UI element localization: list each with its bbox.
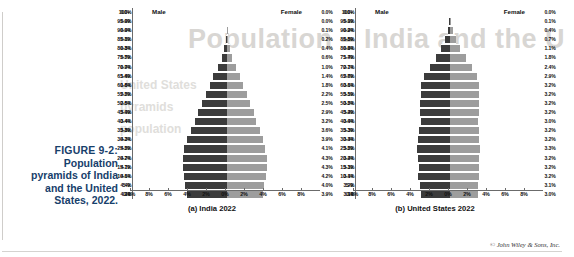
figure-number: FIGURE 9-2:: [8, 144, 118, 157]
male-half: 0.2%: [356, 26, 450, 35]
male-half: 3.2%: [356, 108, 450, 117]
male-half: 0.9%: [356, 44, 450, 53]
female-value-label: 3.3%: [543, 144, 556, 153]
male-value-label: 3.3%: [343, 126, 356, 135]
male-half: 3.4%: [133, 117, 227, 126]
female-half: 3.2%: [450, 126, 544, 135]
axis-tick-label: 4%: [259, 191, 267, 197]
pyramid-bar-pair: 3.8%3.6%: [132, 126, 320, 135]
male-value-label: 4.2%: [120, 135, 133, 144]
male-value-label: 3.0%: [343, 117, 356, 126]
pyramid-bar-pair: 1.4%1.4%: [132, 72, 320, 81]
male-value-label: 2.2%: [120, 90, 133, 99]
male-bar: 1.4%: [213, 72, 226, 81]
female-half: 3.2%: [450, 172, 544, 181]
female-half: 0.7%: [450, 35, 544, 44]
female-half: 0.6%: [227, 53, 321, 62]
figure-9-2: FIGURE 9-2: Population pyramids of India…: [0, 0, 574, 257]
pyramid-row: 70-742.1%2.4%: [327, 63, 543, 72]
female-bar: 0.4%: [227, 44, 231, 53]
pyramid-bar-pair: 0.5%0.6%: [132, 53, 320, 62]
axis-tick-label: 2%: [425, 191, 433, 197]
male-half: 4.4%: [133, 181, 227, 190]
male-half: 3.4%: [356, 135, 450, 144]
female-half: 3.2%: [227, 117, 321, 126]
female-value-label: 3.2%: [543, 99, 556, 108]
male-bar: 1.8%: [210, 81, 227, 90]
female-half: 0.2%: [227, 35, 321, 44]
figure-caption: FIGURE 9-2: Population pyramids of India…: [8, 144, 118, 207]
female-bar: 2.4%: [450, 63, 472, 72]
male-value-label: 3.2%: [343, 108, 356, 117]
female-value-label: 3.2%: [543, 163, 556, 172]
pyramid-bar-pair: 4.4%4.0%: [132, 181, 320, 190]
male-bar: 3.4%: [418, 135, 450, 144]
female-half: 2.5%: [227, 99, 321, 108]
axis-tick-label: 4%: [482, 191, 490, 197]
pyramid-row: 95-990.1%0.1%: [327, 17, 543, 26]
male-half: 2.6%: [133, 99, 227, 108]
female-bar: 3.2%: [450, 154, 480, 163]
pyramid-row: 30-343.4%3.2%: [327, 135, 543, 144]
pyramid-bar-pair: 4.2%3.9%: [132, 135, 320, 144]
axis-tick-label: 6%: [501, 191, 509, 197]
female-bar: 4.0%: [227, 181, 264, 190]
pyramid-bar-pair: 2.6%2.5%: [132, 99, 320, 108]
male-half: 4.2%: [133, 135, 227, 144]
pyramid-bar-pair: 3.0%2.9%: [132, 108, 320, 117]
female-half: 0.0%: [227, 8, 321, 17]
axis-tick-mark: [149, 188, 150, 191]
female-value-label: 3.2%: [543, 90, 556, 99]
plot-area-india: Male Female 100+0.0%0.0%95-990.0%0.0%90-…: [104, 8, 320, 190]
female-value-label: 3.0%: [543, 190, 556, 199]
female-bar: 1.1%: [450, 44, 460, 53]
female-bar: 4.3%: [227, 163, 267, 172]
male-half: 4.7%: [133, 163, 227, 172]
pyramid-row: 25-294.5%4.1%: [104, 144, 320, 153]
male-bar: 3.3%: [419, 126, 450, 135]
female-value-label: 3.2%: [543, 154, 556, 163]
pyramid-row: 40-443.4%3.2%: [104, 117, 320, 126]
axis-tick-mark: [206, 188, 207, 191]
male-value-label: 4.5%: [120, 144, 133, 153]
axis-tick-label: 0%: [444, 191, 452, 197]
male-half: 0.0%: [133, 8, 227, 17]
pyramid-bar-pair: 3.3%3.2%: [355, 126, 543, 135]
female-bar: 3.2%: [450, 172, 480, 181]
axis-tick-mark: [429, 188, 430, 191]
pyramid-bar-pair: 3.4%3.2%: [355, 135, 543, 144]
female-half: 3.2%: [450, 81, 544, 90]
pyramid-row: 90-940.0%0.1%: [104, 26, 320, 35]
pyramid-row: 20-243.4%3.2%: [327, 154, 543, 163]
male-value-label: 3.4%: [120, 117, 133, 126]
pyramid-bar-pair: 4.5%4.1%: [132, 144, 320, 153]
pyramid-row: 10-143.4%3.2%: [327, 172, 543, 181]
pyramid-bar-pair: 3.1%3.2%: [355, 90, 543, 99]
male-value-label: 0.0%: [120, 8, 133, 17]
female-value-label: 1.1%: [543, 44, 556, 53]
female-half: 0.1%: [227, 26, 321, 35]
female-half: 0.0%: [227, 17, 321, 26]
female-half: 3.9%: [227, 135, 321, 144]
female-bar: 4.3%: [227, 154, 267, 163]
male-half: 3.0%: [356, 117, 450, 126]
female-bar: 3.9%: [227, 135, 263, 144]
male-value-label: 4.4%: [120, 181, 133, 190]
pyramid-row: 85-890.5%0.7%: [327, 35, 543, 44]
male-half: 1.4%: [356, 53, 450, 62]
male-bar: 4.7%: [183, 163, 227, 172]
female-half: 0.1%: [450, 17, 544, 26]
pyramid-bar-pair: 3.2%3.2%: [355, 108, 543, 117]
copyright-credit: © John Wiley & Sons, Inc.: [490, 241, 560, 248]
pyramid-bar-pair: 3.3%3.2%: [355, 163, 543, 172]
pyramid-row: 15-194.7%4.3%: [104, 163, 320, 172]
pyramid-bar-pair: 0.3%0.4%: [132, 44, 320, 53]
male-bar: 3.1%: [421, 81, 450, 90]
pyramid-row: 50-542.6%2.5%: [104, 99, 320, 108]
axis-tick-label: 4%: [406, 191, 414, 197]
axis-tick-mark: [372, 188, 373, 191]
x-axis-united-states: 10%8%6%4%2%0%2%4%6%8%: [353, 190, 543, 204]
female-bar: 0.4%: [450, 26, 454, 35]
male-half: 3.2%: [356, 99, 450, 108]
male-half: 1.8%: [133, 81, 227, 90]
